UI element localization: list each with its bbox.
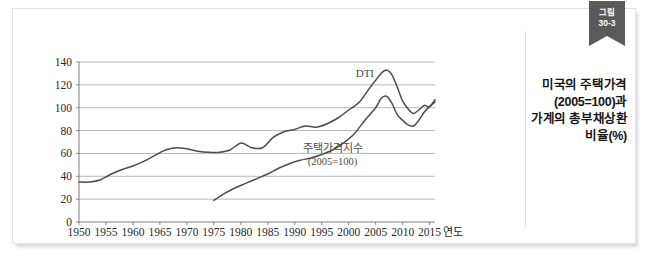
x-tick-label-1995: 1995 bbox=[310, 226, 333, 238]
data-series-group bbox=[79, 70, 435, 200]
annotation-dti: DTI bbox=[356, 67, 375, 79]
x-tick-label-1990: 1990 bbox=[283, 226, 306, 238]
y-tick-label-120: 120 bbox=[55, 79, 73, 91]
line-chart: 020406080100120140 195019551960196519701… bbox=[13, 9, 513, 245]
x-tick-label-2015: 2015 bbox=[418, 226, 441, 238]
x-axis-unit-label: 연도 bbox=[443, 226, 463, 238]
figure-title-line-4: 비율(%) bbox=[531, 128, 627, 145]
y-tick-label-40: 40 bbox=[61, 170, 73, 182]
x-tick-label-2010: 2010 bbox=[391, 226, 414, 238]
y-tick-label-80: 80 bbox=[61, 125, 73, 137]
figure-title-line-1: 미국의 주택가격 bbox=[531, 77, 627, 94]
axis-group bbox=[79, 62, 435, 222]
figure-title: 미국의 주택가격(2005=100)과가계의 총부채상환비율(%) bbox=[531, 77, 627, 145]
x-tick-label-1950: 1950 bbox=[68, 226, 91, 238]
y-tick-label-140: 140 bbox=[55, 56, 73, 68]
x-axis-tick-labels: 1950195519601965197019751980198519901995… bbox=[68, 222, 442, 238]
x-tick-label-1970: 1970 bbox=[175, 226, 198, 238]
panel-divider bbox=[525, 31, 526, 227]
annotation-house-price-index: 주택가격지수 bbox=[303, 142, 363, 154]
x-tick-label-2005: 2005 bbox=[364, 226, 387, 238]
y-tick-label-100: 100 bbox=[55, 102, 73, 114]
series-line-dti bbox=[79, 70, 435, 182]
figure-title-line-2: (2005=100)과 bbox=[531, 94, 627, 111]
x-tick-label-1965: 1965 bbox=[148, 226, 171, 238]
x-tick-label-1955: 1955 bbox=[94, 226, 117, 238]
ribbon-label-top: 그림 bbox=[589, 7, 625, 18]
figure-card: 020406080100120140 195019551960196519701… bbox=[12, 8, 636, 244]
x-tick-label-1985: 1985 bbox=[256, 226, 279, 238]
y-axis-tick-labels: 020406080100120140 bbox=[55, 56, 79, 228]
figure-number-ribbon: 그림 30-3 bbox=[589, 1, 625, 46]
x-tick-label-1980: 1980 bbox=[229, 226, 252, 238]
ribbon-label-bottom: 30-3 bbox=[589, 18, 625, 29]
y-tick-label-20: 20 bbox=[61, 193, 73, 205]
x-tick-label-1975: 1975 bbox=[202, 226, 225, 238]
y-tick-label-60: 60 bbox=[61, 147, 73, 159]
annotation-house-price-index-base: (2005=100) bbox=[308, 156, 358, 168]
x-tick-label-2000: 2000 bbox=[337, 226, 360, 238]
x-tick-label-1960: 1960 bbox=[121, 226, 144, 238]
title-panel: 그림 30-3 미국의 주택가격(2005=100)과가계의 총부채상환비율(%… bbox=[529, 9, 637, 245]
figure-title-line-3: 가계의 총부채상환 bbox=[531, 111, 627, 128]
chart-region: 020406080100120140 195019551960196519701… bbox=[13, 9, 513, 245]
